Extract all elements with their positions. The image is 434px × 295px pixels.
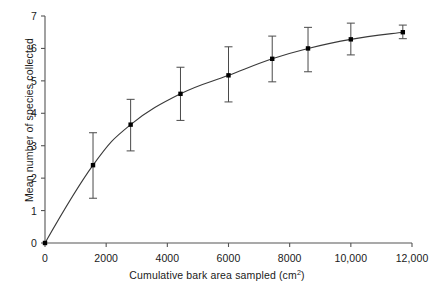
data-point-marker <box>226 73 230 77</box>
x-tick-label: 10,000 <box>334 252 367 264</box>
data-markers-group <box>43 30 405 245</box>
x-axis-title: Cumulative bark area sampled (cm2) <box>0 269 434 281</box>
error-bars-group <box>89 23 407 198</box>
x-tick-label: 6000 <box>217 252 241 264</box>
y-axis-title: Mean number of species collected <box>23 25 35 215</box>
data-point-marker <box>306 46 310 50</box>
data-point-marker <box>128 122 132 126</box>
x-tick-label: 4000 <box>155 252 179 264</box>
plot-canvas <box>0 0 434 295</box>
y-tick-label: 0 <box>15 237 37 249</box>
species-accumulation-chart: 0200040006000800010,00012,000 01234567 C… <box>0 0 434 295</box>
data-point-marker <box>270 57 274 61</box>
y-tick-label: 7 <box>15 10 37 22</box>
x-tick-label: 12,000 <box>396 252 429 264</box>
data-point-marker <box>401 30 405 34</box>
data-point-marker <box>91 163 95 167</box>
data-point-marker <box>178 92 182 96</box>
data-point-marker <box>43 241 47 245</box>
x-axis-ticks <box>45 243 412 247</box>
x-tick-label: 0 <box>42 252 48 264</box>
x-tick-label: 8000 <box>278 252 302 264</box>
data-line-curve <box>45 32 403 243</box>
x-tick-label: 2000 <box>94 252 118 264</box>
y-axis-ticks <box>41 16 45 243</box>
data-point-marker <box>349 37 353 41</box>
